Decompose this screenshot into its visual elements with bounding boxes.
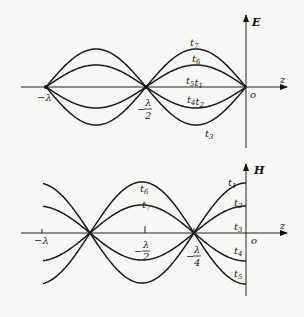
z-axis-label: z	[279, 74, 286, 85]
tick-label-minus-quarter-lambda: − λ 4	[186, 244, 201, 268]
origin-label: o	[250, 89, 256, 100]
tick-label-minus-lambda: −λ	[37, 92, 52, 103]
curve-time-label: t4t2	[187, 94, 205, 109]
curve-time-label: t5	[234, 268, 243, 281]
e-curve	[46, 65, 246, 87]
e-curve	[46, 49, 246, 87]
magnetic-field-panel: H z o −λ − λ 2 − λ 4 t6t7t1t2t3t4t5	[21, 164, 287, 296]
tick-label-minus-half-lambda: − λ 2	[134, 239, 150, 262]
curve-time-label: t6	[192, 53, 201, 66]
node-marker	[144, 85, 148, 89]
svg-text:4: 4	[193, 257, 200, 268]
electric-field-panel: E z o −λ − λ 2 t7t6t5t1t4t2t3	[21, 15, 287, 148]
h-axis-label: H	[253, 164, 265, 177]
standing-wave-diagram: E z o −λ − λ 2 t7t6t5t1t4t2t3 H z o −λ −…	[0, 0, 304, 317]
curve-time-label: t7	[142, 199, 151, 212]
svg-text:λ: λ	[142, 239, 149, 250]
curve-time-label: t5t1	[186, 75, 203, 90]
svg-text:2: 2	[142, 251, 149, 262]
z-axis-label: z	[279, 220, 286, 231]
e-axis-label: E	[251, 16, 261, 29]
curve-time-label: t7	[190, 37, 199, 50]
curve-time-label: t6	[140, 183, 149, 196]
curve-time-label: t3	[205, 128, 214, 141]
node-marker	[44, 85, 48, 89]
curve-time-label: t3	[234, 221, 243, 234]
origin-label: o	[251, 235, 257, 246]
tick-label-minus-half-lambda: − λ 2	[137, 97, 152, 121]
svg-text:2: 2	[144, 110, 151, 121]
svg-text:−: −	[134, 246, 142, 257]
curve-time-label: t4	[234, 245, 243, 258]
curve-time-label: t1	[228, 177, 237, 190]
tick-label-minus-lambda: −λ	[34, 235, 49, 246]
svg-text:λ: λ	[193, 244, 200, 255]
svg-text:λ: λ	[144, 97, 151, 108]
